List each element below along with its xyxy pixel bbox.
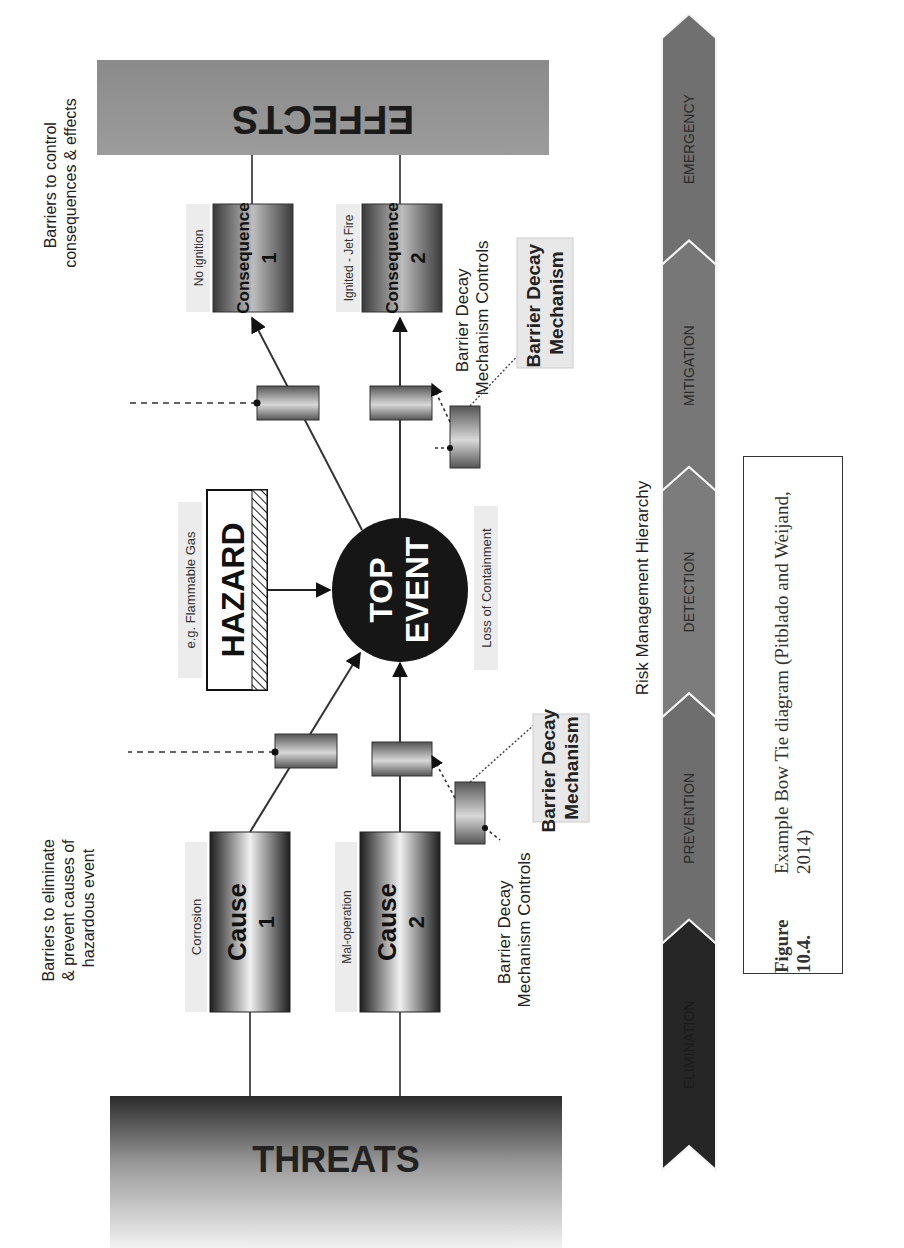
right-barriers-note: Barriers to control consequences & effec… bbox=[42, 98, 79, 268]
hazard-label: HAZARD bbox=[215, 522, 251, 657]
effects-panel: EFFECTS bbox=[97, 60, 549, 155]
path-top-event-consequence-1 bbox=[252, 318, 362, 530]
preventive-barrier-1 bbox=[275, 734, 337, 768]
right-decay-control-barrier bbox=[450, 406, 480, 468]
left-decay-group: Barrier Decay Mechanism Controls Barrier… bbox=[432, 704, 589, 1008]
left-note-line-3: hazardous event bbox=[80, 848, 97, 967]
left-decay-control-barrier bbox=[455, 782, 485, 844]
hazard-example: e.g. Flammable Gas bbox=[183, 531, 198, 649]
consequence-2: Consequence 2 Ignited - Jet Fire bbox=[336, 202, 442, 313]
consequence-2-number: 2 bbox=[407, 252, 429, 263]
preventive-barrier-2 bbox=[372, 742, 432, 776]
cause-1-title: Cause bbox=[222, 883, 252, 961]
consequence-2-title: Consequence bbox=[383, 202, 402, 313]
mitigative-barrier-1 bbox=[257, 386, 319, 420]
right-note-line-1: Barriers to control bbox=[42, 122, 59, 248]
top-event: TOP EVENT Loss of Containment bbox=[332, 506, 498, 670]
left-decay-controls: Barrier Decay Mechanism Controls bbox=[495, 853, 534, 1008]
top-event-line2: EVENT bbox=[399, 536, 435, 643]
caption-text: Example Bow Tie diagram (Pitblado and We… bbox=[771, 457, 815, 874]
hierarchy-arrow: ELIMINATIONPREVENTIONDETECTIONMITIGATION… bbox=[662, 14, 716, 1170]
left-barriers-note: Barriers to eliminate & prevent causes o… bbox=[40, 835, 97, 982]
top-event-line1: TOP bbox=[363, 557, 399, 622]
caption-label: Figure 10.4. bbox=[771, 880, 815, 973]
hierarchy-title: Risk Management Hierarchy bbox=[633, 480, 652, 695]
top-event-description: Loss of Containment bbox=[479, 528, 494, 648]
threats-label: THREATS bbox=[252, 1139, 419, 1180]
hierarchy-stage-label: ELIMINATION bbox=[681, 1001, 697, 1089]
threats-panel: THREATS bbox=[110, 1096, 562, 1248]
right-decay-controls: Barrier Decay Mechanism Controls bbox=[453, 241, 492, 396]
left-note-line-2: & prevent causes of bbox=[60, 839, 77, 981]
cause-2: Cause 2 Mal-operation bbox=[335, 832, 440, 1012]
cause-2-number: 2 bbox=[404, 916, 429, 928]
cause-1-tag: Corrosion bbox=[189, 899, 204, 955]
consequence-2-tag: Ignited - Jet Fire bbox=[342, 214, 356, 301]
consequence-1-tag: No ignition bbox=[192, 230, 206, 287]
cause-2-title: Cause bbox=[372, 883, 402, 961]
cause-1: Cause 1 Corrosion bbox=[185, 832, 290, 1012]
rotated-page: THREATS EFFECTS Cause 1 Corrosion Cause … bbox=[0, 0, 904, 1248]
consequence-1-number: 1 bbox=[258, 252, 280, 263]
cause-1-number: 1 bbox=[254, 916, 279, 928]
hierarchy-stage-label: PREVENTION bbox=[681, 773, 697, 864]
right-decay-group: Barrier Decay Mechanism Controls Barrier… bbox=[432, 238, 573, 468]
hierarchy-stage-label: DETECTION bbox=[681, 552, 697, 633]
consequence-1-title: Consequence bbox=[234, 202, 253, 313]
hierarchy-stage-label: EMERGENCY bbox=[681, 93, 697, 184]
figure-caption: Figure 10.4. Example Bow Tie diagram (Pi… bbox=[743, 456, 843, 974]
cause-2-tag: Mal-operation bbox=[340, 890, 354, 963]
hazard: HAZARD e.g. Flammable Gas bbox=[178, 490, 267, 690]
consequence-1: Consequence 1 No ignition bbox=[186, 202, 293, 313]
effects-label: EFFECTS bbox=[232, 98, 414, 142]
left-note-line-1: Barriers to eliminate bbox=[40, 839, 57, 981]
right-note-line-2: consequences & effects bbox=[62, 98, 79, 268]
mitigative-barrier-2 bbox=[370, 386, 432, 420]
hierarchy-stage-label: MITIGATION bbox=[681, 325, 697, 406]
